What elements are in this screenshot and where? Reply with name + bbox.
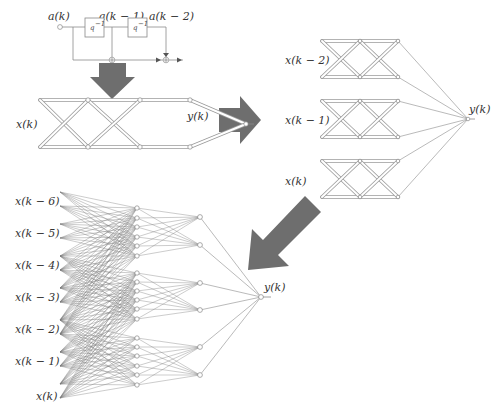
node: [86, 145, 90, 149]
lattice1-output-label: y(k): [186, 110, 208, 123]
node: [198, 215, 203, 220]
transform-arrow-down-icon: [90, 63, 135, 99]
node: [396, 195, 400, 199]
node: [135, 244, 139, 248]
node: [198, 243, 203, 248]
input-edge: [60, 192, 137, 218]
network-input-label-0: x(k − 6): [15, 195, 60, 208]
hidden-edge: [137, 283, 200, 319]
node: [396, 75, 400, 79]
node: [198, 281, 203, 286]
hidden-edge: [137, 347, 200, 356]
hidden-edge: [137, 347, 200, 385]
delay-exponent: −1: [95, 20, 105, 28]
node: [135, 216, 139, 220]
node: [135, 317, 139, 321]
output-edge: [200, 297, 261, 347]
delay-exponent: −1: [138, 20, 148, 28]
node: [358, 39, 362, 43]
output-edge: [398, 77, 468, 119]
output-edge: [398, 41, 468, 119]
network-output-label: y(k): [263, 281, 285, 294]
hidden-edge: [137, 217, 200, 246]
output-edge: [398, 101, 468, 119]
node: [135, 354, 139, 358]
node: [358, 159, 362, 163]
node: [135, 280, 139, 284]
input-edge: [60, 246, 137, 288]
hidden-edge: [137, 282, 200, 283]
node: [198, 308, 203, 313]
node: [135, 336, 139, 340]
hidden-edge: [137, 309, 200, 310]
node: [188, 145, 192, 149]
node: [135, 307, 139, 311]
hidden-edge: [137, 245, 200, 256]
node: [259, 295, 264, 300]
triple-lattice-network: [322, 39, 475, 199]
output-edge: [200, 297, 261, 310]
node: [396, 159, 400, 163]
network-input-label-4: x(k − 2): [15, 323, 60, 336]
hidden-edge: [137, 338, 200, 347]
hidden-edge: [137, 310, 200, 319]
arrowhead-icon: [163, 53, 169, 57]
node: [396, 135, 400, 139]
network-input-label-1: x(k − 5): [15, 227, 60, 240]
input-edge: [60, 320, 137, 356]
node: [138, 145, 142, 149]
output-edge: [200, 297, 261, 375]
node: [135, 289, 139, 293]
hidden-edge: [137, 217, 200, 256]
node: [358, 195, 362, 199]
hidden-edge: [137, 375, 200, 385]
lattice3-input-label-0: x(k − 2): [285, 54, 330, 67]
hidden-edge: [137, 356, 200, 375]
node: [135, 383, 139, 387]
lattice-edge-inner: [190, 124, 246, 147]
label-a-k: a(k): [48, 10, 70, 23]
lattice1-input-label: x(k): [16, 118, 37, 131]
hidden-edge: [137, 217, 200, 237]
label-a-k-minus-2: a(k − 2): [149, 10, 194, 23]
node: [188, 98, 192, 102]
node: [138, 98, 142, 102]
node: [135, 364, 139, 368]
hidden-edge: [137, 208, 200, 245]
hidden-edge: [137, 283, 200, 300]
node: [135, 298, 139, 302]
node: [135, 345, 139, 349]
input-edge: [60, 319, 137, 398]
output-edge: [398, 119, 468, 137]
transform-arrow-diagonal-icon: [248, 196, 321, 270]
node: [198, 345, 203, 350]
network-input-label-3: x(k − 3): [15, 291, 60, 304]
node: [135, 206, 139, 210]
hidden-edge: [137, 366, 200, 375]
hidden-edge: [137, 291, 200, 310]
node: [135, 254, 139, 258]
output-edge: [398, 119, 468, 161]
input-edge: [60, 208, 137, 256]
node: [86, 98, 90, 102]
fir-filter-diagram: a(k) a(k − 1) a(k − 2) q−1q−1: [48, 10, 194, 63]
node: [396, 39, 400, 43]
lattice3-input-label-1: x(k − 1): [285, 114, 330, 127]
lattice3-input-label-2: x(k): [285, 175, 306, 188]
hidden-edge: [137, 347, 200, 366]
filter-input-node: [58, 25, 63, 30]
node: [135, 271, 139, 275]
node: [396, 99, 400, 103]
arrowhead-icon: [177, 58, 182, 63]
node: [358, 75, 362, 79]
node: [358, 99, 362, 103]
hidden-edge: [137, 208, 200, 217]
node: [244, 122, 248, 126]
hidden-edge: [137, 273, 200, 283]
signal-flow-diagram: a(k) a(k − 1) a(k − 2) q−1q−1 x(k) y(k) …: [0, 0, 500, 416]
input-edge: [60, 208, 137, 334]
network-input-label-2: x(k − 4): [15, 259, 60, 272]
node: [135, 235, 139, 239]
output-edge: [398, 119, 468, 197]
node: [135, 225, 139, 229]
